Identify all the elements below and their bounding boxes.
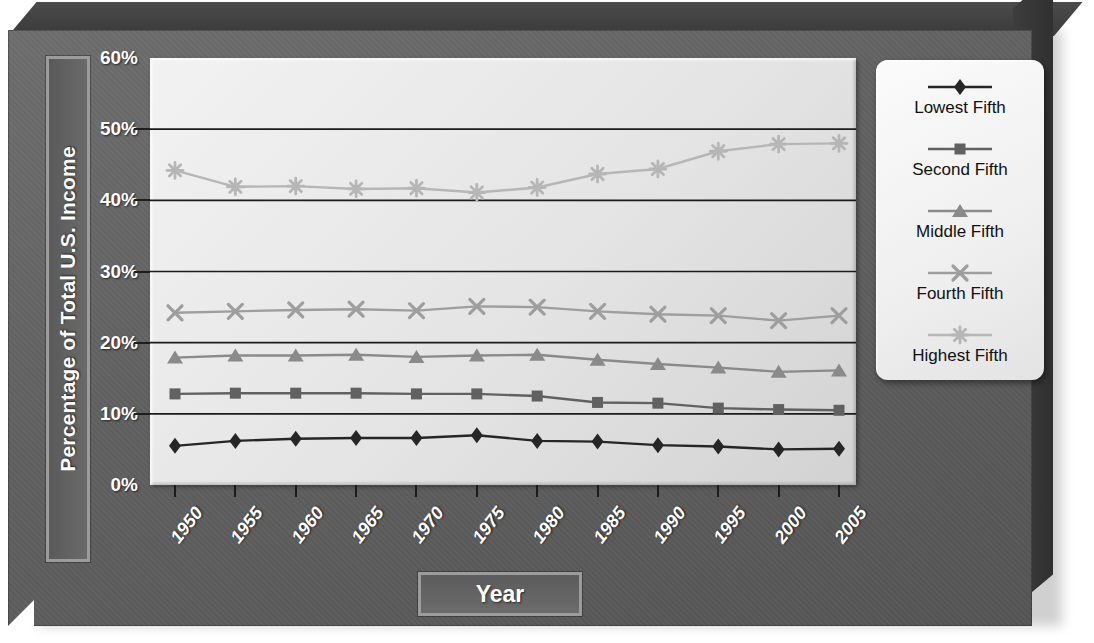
data-series-group — [167, 135, 847, 457]
x-axis-tick-mark — [536, 485, 538, 497]
x-axis-tick-label: 1960 — [287, 503, 328, 547]
legend-item-highest-fifth[interactable]: Highest Fifth — [876, 314, 1044, 376]
diamond-marker-icon — [592, 434, 604, 450]
y-axis-tick-label: 60% — [100, 47, 138, 69]
x-axis-title-box: Year — [418, 572, 582, 616]
square-marker-icon — [592, 397, 603, 408]
x-axis-tick-label: 1995 — [710, 503, 751, 547]
square-marker-icon — [834, 405, 845, 416]
x-axis-tick-label: 1990 — [649, 503, 690, 547]
star-marker-icon — [288, 178, 304, 194]
x-axis-title: Year — [476, 581, 525, 608]
square-marker-icon — [912, 139, 1008, 159]
legend-item-lowest-fifth[interactable]: Lowest Fifth — [876, 66, 1044, 128]
x-axis-tick-mark — [234, 485, 236, 497]
star-marker-icon — [227, 179, 243, 195]
diamond-marker-icon — [471, 427, 483, 443]
legend-item-fourth-fifth[interactable]: Fourth Fifth — [876, 252, 1044, 314]
star-marker-icon — [650, 161, 666, 177]
x-axis-tick-mark — [597, 485, 599, 497]
square-marker-icon — [713, 403, 724, 414]
square-marker-icon — [532, 391, 543, 402]
star-marker-icon — [408, 180, 424, 196]
star-marker-icon — [710, 143, 726, 159]
x-axis-tick-label: 2000 — [770, 503, 811, 547]
x-axis-tick-label: 1950 — [166, 503, 207, 547]
y-axis-tick-label: 10% — [100, 403, 138, 425]
x-axis-tick-mark — [838, 485, 840, 497]
diamond-marker-icon — [290, 431, 302, 447]
x-axis-tick-mark — [657, 485, 659, 497]
legend-item-second-fifth[interactable]: Second Fifth — [876, 128, 1044, 190]
legend-label: Highest Fifth — [912, 346, 1007, 366]
square-marker-icon — [351, 388, 362, 399]
x-axis-tick-mark — [355, 485, 357, 497]
y-axis-tick-labels: 0%10%20%30%40%50%60% — [84, 58, 146, 485]
x-axis-tick-mark — [476, 485, 478, 497]
series-line — [175, 435, 839, 449]
y-axis-tick-label: 30% — [100, 261, 138, 283]
star-marker-icon — [912, 325, 1008, 345]
triangle-marker-icon — [912, 201, 1008, 221]
x-axis-tick-label: 1975 — [468, 503, 509, 547]
chart-legend: Lowest FifthSecond FifthMiddle FifthFour… — [876, 60, 1044, 380]
y-axis-tick-label: 20% — [100, 332, 138, 354]
legend-label: Lowest Fifth — [914, 98, 1006, 118]
x-axis-tick-label: 1955 — [227, 503, 268, 547]
diamond-marker-icon — [773, 441, 785, 457]
square-marker-icon — [773, 404, 784, 415]
diamond-marker-icon — [912, 77, 1008, 97]
x-axis-tick-label: 1985 — [589, 503, 630, 547]
diamond-marker-icon — [652, 437, 664, 453]
star-marker-icon — [831, 135, 847, 151]
x-axis-tick-label: 1970 — [408, 503, 449, 547]
series-line — [175, 393, 839, 410]
series-line — [175, 143, 839, 192]
legend-item-middle-fifth[interactable]: Middle Fifth — [876, 190, 1044, 252]
diamond-marker-icon — [531, 433, 543, 449]
plot-area-svg — [150, 58, 856, 485]
legend-label: Fourth Fifth — [917, 284, 1004, 304]
diamond-marker-icon — [229, 433, 241, 449]
x-axis-tick-mark — [778, 485, 780, 497]
star-marker-icon — [771, 136, 787, 152]
diamond-marker-icon — [833, 441, 845, 457]
legend-label: Second Fifth — [912, 160, 1007, 180]
cross-marker-icon — [912, 263, 1008, 283]
star-marker-icon — [167, 162, 183, 178]
y-axis-tick-label: 40% — [100, 189, 138, 211]
series-second-fifth — [170, 388, 845, 416]
square-marker-icon — [411, 388, 422, 399]
star-marker-icon — [469, 185, 485, 201]
diamond-marker-icon — [410, 430, 422, 446]
y-axis-tick-label: 0% — [111, 474, 138, 496]
diamond-marker-icon — [350, 430, 362, 446]
square-marker-icon — [955, 143, 966, 154]
diamond-marker-icon — [954, 79, 966, 95]
series-line — [175, 355, 839, 372]
star-marker-icon — [348, 181, 364, 197]
diamond-marker-icon — [712, 439, 724, 455]
series-fourth-fifth — [168, 299, 846, 327]
square-marker-icon — [230, 388, 241, 399]
y-axis-title: Percentage of Total U.S. Income — [56, 146, 80, 472]
x-axis-tick-labels: 1950195519601965197019751980198519901995… — [150, 485, 856, 565]
x-axis-tick-mark — [174, 485, 176, 497]
chart-screenshot: Percentage of Total U.S. Income 0%10%20%… — [0, 0, 1094, 643]
square-marker-icon — [652, 398, 663, 409]
gridlines — [150, 129, 856, 414]
square-marker-icon — [471, 388, 482, 399]
y-axis-tick-label: 50% — [100, 118, 138, 140]
series-middle-fifth — [167, 348, 847, 378]
x-axis-tick-mark — [717, 485, 719, 497]
diamond-marker-icon — [169, 438, 181, 454]
x-axis-tick-label: 1980 — [529, 503, 570, 547]
star-marker-icon — [952, 327, 968, 343]
series-lowest-fifth — [169, 427, 845, 457]
x-axis-tick-mark — [295, 485, 297, 497]
series-line — [175, 306, 839, 320]
legend-label: Middle Fifth — [916, 222, 1004, 242]
x-axis-tick-label: 1965 — [347, 503, 388, 547]
star-marker-icon — [529, 180, 545, 196]
star-marker-icon — [590, 166, 606, 182]
